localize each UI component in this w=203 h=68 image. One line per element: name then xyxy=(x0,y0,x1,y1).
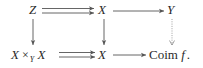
arrow-z-to-x-double xyxy=(42,9,94,14)
node-fiber-product: X×Y X xyxy=(11,48,45,63)
coim-text: Coim xyxy=(149,47,178,62)
node-x-bottom: X xyxy=(98,48,106,61)
node-y: Y xyxy=(167,3,174,16)
coim-period: . xyxy=(187,47,190,62)
node-coim-f: Coim f. xyxy=(149,48,190,61)
fiber-product-times: × xyxy=(22,48,29,62)
coim-var-f: f xyxy=(181,47,185,62)
fiber-product-right-x: X xyxy=(37,47,45,62)
node-x-top: X xyxy=(98,3,106,16)
fiber-product-subscript-y: Y xyxy=(30,55,34,64)
fiber-product-left-x: X xyxy=(11,47,19,62)
node-z: Z xyxy=(29,3,36,16)
arrow-fiber-product-to-x-double xyxy=(59,53,95,58)
